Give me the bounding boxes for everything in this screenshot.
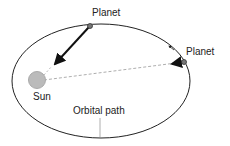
orbital-path-label: Orbital path — [73, 106, 125, 116]
gravity-arrow-top — [55, 27, 89, 64]
planet-sun-dashed-line — [44, 63, 176, 80]
sun-icon — [29, 72, 46, 89]
sun-label: Sun — [33, 92, 51, 102]
gravity-dashed-line-top — [44, 66, 52, 75]
planet-right-icon — [182, 60, 187, 65]
planet-right-label: Planet — [186, 47, 214, 57]
planet-top-label: Planet — [92, 8, 120, 18]
planet-top-icon — [88, 24, 93, 29]
orbit-diagram — [0, 0, 230, 146]
